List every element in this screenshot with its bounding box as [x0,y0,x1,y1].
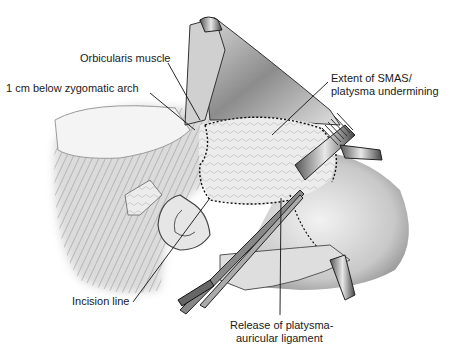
label-incision-line: Incision line [72,295,129,308]
upper-skin-flap [185,17,340,125]
label-smas-extent-line2: platysma undermining [331,85,439,98]
label-orbicularis-muscle: Orbicularis muscle [80,52,170,65]
label-release-line1: Release of platysma- [230,319,333,332]
surgical-illustration [0,0,454,356]
label-zygomatic-arch: 1 cm below zygomatic arch [6,82,139,95]
ear [158,195,210,250]
label-smas-extent-line1: Extent of SMAS/ [331,72,412,85]
label-release-line2: auricular ligament [236,332,323,345]
